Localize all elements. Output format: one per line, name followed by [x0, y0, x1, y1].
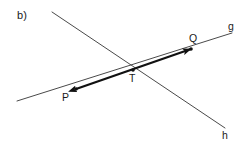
- part-label: b): [17, 10, 27, 21]
- line-label-h: h: [222, 130, 228, 141]
- geometry-figure: b) g h P T Q: [0, 0, 247, 148]
- line-label-g: g: [228, 21, 234, 32]
- line-h: [52, 12, 225, 128]
- line-g: [17, 33, 232, 101]
- point-q-marker: [189, 47, 193, 51]
- point-p-marker: [74, 87, 78, 91]
- point-label-t: T: [129, 73, 135, 84]
- point-label-q: Q: [189, 33, 197, 44]
- point-label-p: P: [62, 92, 69, 103]
- figure-canvas: [0, 0, 247, 148]
